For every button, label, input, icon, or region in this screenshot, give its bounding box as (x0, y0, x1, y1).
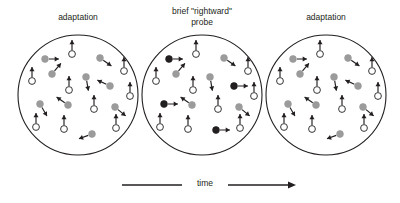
arrow-head (340, 95, 345, 99)
dot-open (127, 82, 134, 99)
dot-body (314, 87, 321, 94)
time-axis-arrowhead (288, 182, 296, 189)
dot-open (281, 113, 288, 130)
panel-label-left: adaptation (8, 12, 148, 23)
dot-body (207, 74, 214, 81)
dot-adapting (97, 55, 112, 66)
arrow-head (174, 102, 178, 107)
dot-body (161, 101, 168, 108)
arrow-head (194, 40, 199, 44)
dot-probe (231, 83, 248, 90)
dot-adapting (297, 63, 309, 77)
dot-open (190, 76, 197, 93)
panel-left (18, 35, 138, 155)
dot-open (317, 40, 324, 57)
dot-body (37, 101, 44, 108)
arrow-head (55, 57, 59, 62)
dot-body (107, 83, 114, 90)
dot-open (33, 113, 40, 130)
arrow-head (85, 86, 90, 91)
dot-body (375, 93, 382, 100)
dot-body (281, 124, 288, 131)
dot-adapting (79, 131, 95, 140)
dot-body (317, 51, 324, 58)
dot-body (231, 83, 238, 90)
arrow-head (238, 114, 243, 118)
dot-probe (166, 56, 183, 63)
dot-adapting (290, 56, 307, 63)
dot-adapting (305, 97, 320, 108)
dot-body (215, 106, 222, 113)
motion-adaptation-figure: adaptation brief "rightward" probe adapt… (0, 0, 400, 203)
dot-body (153, 78, 160, 85)
arrow-head (191, 76, 196, 80)
dot-open (237, 114, 244, 131)
dot-body (66, 87, 73, 94)
dot-body (49, 71, 56, 78)
dot-adapting (97, 80, 113, 90)
dot-open (375, 82, 382, 99)
dot-adapting (37, 101, 47, 116)
dot-body (236, 104, 243, 111)
arrow-head (310, 115, 315, 119)
arrow-head (209, 86, 214, 91)
dot-adapting (285, 101, 295, 116)
dot-body (345, 55, 352, 62)
aperture-circle (18, 35, 138, 155)
arrow-head (70, 40, 75, 44)
dot-adapting (207, 74, 215, 91)
dot-open (361, 114, 368, 131)
dot-body (42, 56, 49, 63)
dot-body (297, 71, 304, 78)
dot-body (309, 126, 316, 133)
arrow-head (128, 82, 133, 86)
dot-adapting (345, 80, 361, 90)
dot-body (127, 93, 134, 100)
aperture-circle (266, 35, 386, 155)
dot-body (339, 106, 346, 113)
dot-body (313, 102, 320, 109)
dot-adapting (112, 104, 126, 116)
dot-body (89, 131, 96, 138)
arrow-head (376, 82, 381, 86)
arrow-head (282, 113, 287, 117)
panel-middle (142, 35, 262, 155)
dot-body (369, 68, 376, 75)
dot-body (61, 126, 68, 133)
dot-open (215, 95, 222, 112)
arrow-head (318, 40, 323, 44)
dot-open (66, 76, 73, 93)
dot-adapting (49, 63, 61, 77)
arrow-head (62, 115, 67, 119)
arrow-head (179, 57, 183, 62)
dot-body (361, 125, 368, 132)
arrow-head (158, 113, 163, 117)
dot-body (213, 127, 220, 134)
dot-open (61, 115, 68, 132)
arrow-head (244, 84, 248, 89)
dot-adapting (236, 104, 250, 116)
dot-body (277, 78, 284, 85)
time-axis-label: time (182, 178, 228, 188)
dot-body (69, 51, 76, 58)
dot-body (245, 68, 252, 75)
dot-field (277, 40, 382, 140)
dot-body (166, 56, 173, 63)
dot-body (157, 124, 164, 131)
dot-body (337, 131, 344, 138)
dot-body (221, 55, 228, 62)
dot-body (121, 68, 128, 75)
dot-adapting (83, 74, 91, 91)
arrow-head (278, 67, 283, 71)
dot-open (314, 76, 321, 93)
arrow-head (154, 67, 159, 71)
dot-adapting (331, 74, 339, 91)
dot-body (285, 101, 292, 108)
dot-body (360, 104, 367, 111)
arrow-head (30, 67, 35, 71)
dot-open (339, 95, 346, 112)
dot-body (355, 83, 362, 90)
panel-label-right: adaptation (256, 12, 396, 23)
dot-body (185, 126, 192, 133)
arrow-head (114, 114, 119, 118)
